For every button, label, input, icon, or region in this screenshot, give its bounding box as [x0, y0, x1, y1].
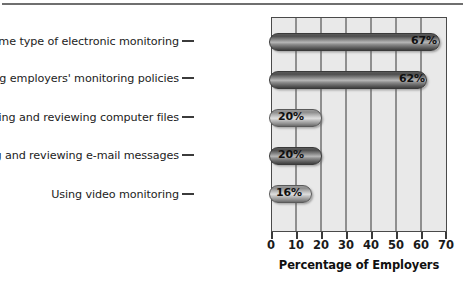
tick-label-50: 50 — [386, 240, 406, 252]
category-label-text: Using video monitoring — [51, 188, 182, 201]
category-label-text: Storing and reviewing e-mail messages — [0, 149, 182, 162]
category-label-1: Communicating employers' monitoring poli… — [0, 73, 194, 84]
category-label-text: Using some type of electronic monitoring — [0, 35, 182, 48]
category-label-0: Using some type of electronic monitoring — [0, 36, 194, 47]
leader-line-icon — [182, 154, 194, 156]
x-axis-title: Percentage of Employers — [271, 258, 447, 272]
tick-label-30: 30 — [336, 240, 356, 252]
tick-label-70: 70 — [436, 240, 456, 252]
bar-value-2: 20% — [278, 108, 304, 126]
category-label-3: Storing and reviewing e-mail messages — [0, 150, 194, 161]
category-label-2: Storing and reviewing computer files — [0, 112, 194, 123]
leader-line-icon — [182, 116, 194, 118]
bar-value-1: 62% — [399, 70, 425, 88]
leader-line-icon — [182, 40, 194, 42]
category-label-4: Using video monitoring — [51, 189, 194, 200]
bar-value-4: 16% — [276, 184, 302, 202]
tick-label-0: 0 — [261, 240, 281, 252]
bar-value-0: 67% — [411, 32, 437, 50]
tick-label-60: 60 — [411, 240, 431, 252]
leader-line-icon — [182, 77, 194, 79]
category-label-text: Communicating employers' monitoring poli… — [0, 72, 182, 85]
chart-figure: Using some type of electronic monitoring… — [0, 0, 465, 284]
tick-label-10: 10 — [286, 240, 306, 252]
category-label-text: Storing and reviewing computer files — [0, 111, 182, 124]
leader-line-icon — [182, 193, 194, 195]
tick-label-20: 20 — [311, 240, 331, 252]
bar-value-3: 20% — [278, 146, 304, 164]
top-divider-rule — [2, 3, 463, 5]
tick-label-40: 40 — [361, 240, 381, 252]
